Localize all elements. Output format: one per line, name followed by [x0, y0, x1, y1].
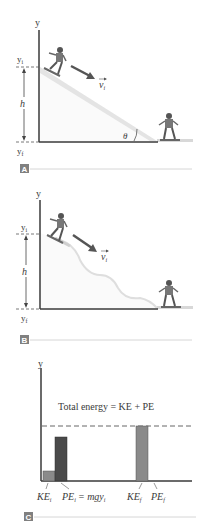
svg-text:B: B [22, 336, 28, 345]
bar-ke-initial [43, 471, 55, 481]
panel-c: y Total energy = KE + PE KEi PEi= mgyi K… [0, 360, 206, 530]
angle-label: θ [123, 131, 128, 141]
bar-pe-initial [55, 437, 67, 481]
energy-bar-chart: y Total energy = KE + PE KEi PEi= mgyi K… [0, 360, 206, 530]
velocity-label: vi [99, 79, 105, 91]
yf-label: yf [17, 146, 24, 157]
incline-diagram: y yi yf h vi θ [0, 0, 206, 180]
velocity-label: vi [101, 251, 107, 263]
hill-diagram: y yi yf h vi [0, 180, 206, 360]
snowboarder-final-icon [159, 113, 180, 140]
label-ke-final: KEf [126, 491, 143, 503]
label-pe-final: PEf [150, 491, 166, 503]
axis-label-y: y [35, 17, 40, 28]
snowboarder-final-icon [159, 280, 181, 307]
panel-b: y yi yf h vi [0, 180, 206, 360]
chart-title: Total energy = KE + PE [58, 401, 154, 412]
svg-text:C: C [26, 513, 32, 522]
svg-text:A: A [22, 165, 28, 174]
height-label: h [20, 98, 25, 109]
height-label: h [22, 266, 27, 277]
label-pe-initial: PEi= mgyi [61, 491, 106, 503]
axis-label-y: y [38, 360, 43, 369]
velocity-arrow [71, 66, 90, 76]
panel-a: y yi yf h vi θ [0, 0, 206, 180]
yi-label: yi [17, 54, 24, 65]
axis-label-y: y [36, 188, 41, 199]
yf-label: yf [21, 313, 28, 324]
label-ke-initial: KEi [36, 491, 52, 503]
yi-label: yi [21, 222, 28, 233]
velocity-arrow [73, 235, 92, 248]
bar-ke-final [136, 426, 148, 481]
